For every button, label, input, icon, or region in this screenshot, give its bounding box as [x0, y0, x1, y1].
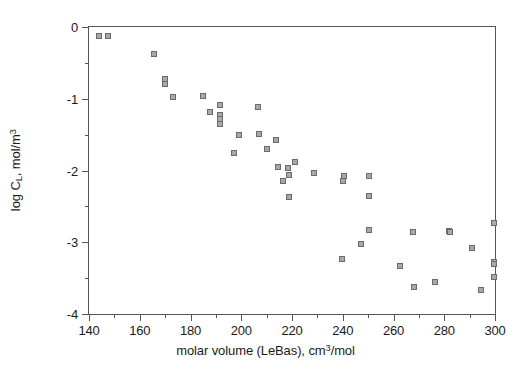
x-axis-tick-label: 280 — [434, 323, 455, 338]
data-point-marker — [280, 178, 286, 184]
x-axis-tick-label: 240 — [332, 323, 353, 338]
data-point-marker — [217, 102, 223, 108]
y-axis-minor-tick — [85, 278, 89, 279]
data-point-marker — [469, 245, 475, 251]
data-point-marker — [151, 51, 157, 57]
x-axis-tick-label: 220 — [281, 323, 302, 338]
x-axis-minor-tick — [216, 314, 217, 318]
y-axis-tick-label: -3 — [67, 235, 78, 250]
data-point-marker — [96, 33, 102, 39]
x-axis-minor-tick — [267, 314, 268, 318]
x-axis-tick — [191, 314, 192, 321]
x-axis-tick — [140, 314, 141, 321]
y-axis-minor-tick — [85, 206, 89, 207]
data-point-marker — [286, 172, 292, 178]
data-point-marker — [292, 159, 298, 165]
x-axis-minor-tick — [317, 314, 318, 318]
data-point-marker — [491, 261, 497, 267]
data-point-marker — [366, 227, 372, 233]
data-point-marker — [273, 137, 279, 143]
data-point-marker — [207, 109, 213, 115]
y-axis-tick-label: -2 — [67, 163, 78, 178]
x-axis-tick — [241, 314, 242, 321]
data-point-marker — [339, 256, 345, 262]
x-axis-tick-label: 160 — [129, 323, 150, 338]
x-axis-minor-tick — [114, 314, 115, 318]
scatter-plot-figure: 0-1-2-3-4140160180200220240260280300 log… — [0, 0, 531, 376]
data-point-marker — [366, 193, 372, 199]
data-point-marker — [255, 104, 261, 110]
x-axis-tick — [292, 314, 293, 321]
x-axis-tick — [444, 314, 445, 321]
data-point-marker — [256, 131, 262, 137]
data-point-marker — [170, 94, 176, 100]
y-axis-tick — [82, 171, 89, 172]
x-axis-tick — [89, 314, 90, 321]
x-axis-tick-label: 260 — [383, 323, 404, 338]
x-axis-tick — [394, 314, 395, 321]
y-axis-tick — [82, 314, 89, 315]
y-axis-tick — [82, 27, 89, 28]
x-axis-minor-tick — [470, 314, 471, 318]
y-axis-minor-tick — [85, 135, 89, 136]
data-point-marker — [285, 165, 291, 171]
x-axis-tick-label: 140 — [78, 323, 99, 338]
x-axis-tick — [343, 314, 344, 321]
x-axis-minor-tick — [165, 314, 166, 318]
data-point-marker — [410, 229, 416, 235]
x-axis-tick-label: 300 — [484, 323, 505, 338]
data-point-marker — [411, 284, 417, 290]
data-point-marker — [447, 229, 453, 235]
data-point-marker — [217, 121, 223, 127]
y-axis-tick-label: -4 — [67, 307, 78, 322]
x-axis-tick-label: 180 — [180, 323, 201, 338]
data-point-marker — [200, 93, 206, 99]
data-point-marker — [236, 132, 242, 138]
data-point-marker — [397, 263, 403, 269]
data-point-marker — [432, 279, 438, 285]
data-point-marker — [478, 287, 484, 293]
x-axis-minor-tick — [419, 314, 420, 318]
data-point-marker — [162, 81, 168, 87]
data-point-marker — [286, 194, 292, 200]
x-axis-tick-label: 200 — [231, 323, 252, 338]
y-axis-tick-label: 0 — [71, 20, 78, 35]
data-point-marker — [358, 241, 364, 247]
x-axis-minor-tick — [368, 314, 369, 318]
data-point-marker — [491, 274, 497, 280]
data-point-marker — [105, 33, 111, 39]
x-axis-title: molar volume (LeBas), cm3/mol — [0, 343, 531, 358]
data-point-marker — [341, 173, 347, 179]
y-axis-minor-tick — [85, 63, 89, 64]
x-axis-tick — [495, 314, 496, 321]
plot-area: 0-1-2-3-4140160180200220240260280300 — [88, 26, 496, 315]
y-axis-tick — [82, 242, 89, 243]
data-point-marker — [231, 150, 237, 156]
data-point-marker — [311, 170, 317, 176]
data-point-marker — [275, 164, 281, 170]
y-axis-tick-label: -1 — [67, 91, 78, 106]
y-axis-title: log CL, mol/m3 — [6, 26, 26, 315]
data-point-marker — [264, 146, 270, 152]
y-axis-tick — [82, 99, 89, 100]
data-point-marker — [366, 173, 372, 179]
data-point-marker — [491, 220, 497, 226]
